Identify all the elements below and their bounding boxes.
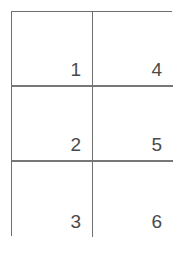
grid-cell-5[interactable]: 5 [93, 87, 173, 162]
grid-cell-1[interactable]: 1 [12, 12, 93, 87]
page-root: 1 4 2 5 3 6 [0, 0, 188, 256]
grid-cell-2[interactable]: 2 [12, 87, 93, 162]
grid-cell-4[interactable]: 4 [93, 12, 173, 87]
grid-diagram: 1 4 2 5 3 6 [11, 11, 172, 236]
grid-cell-number: 5 [151, 135, 173, 160]
grid-cell-number: 4 [151, 60, 173, 85]
grid-cell-6[interactable]: 6 [93, 162, 173, 237]
grid-cell-3[interactable]: 3 [12, 162, 93, 237]
grid-cell-number: 6 [151, 212, 173, 237]
grid-cell-number: 3 [70, 212, 92, 237]
grid-cell-number: 1 [70, 60, 92, 85]
grid-cell-number: 2 [70, 135, 92, 160]
